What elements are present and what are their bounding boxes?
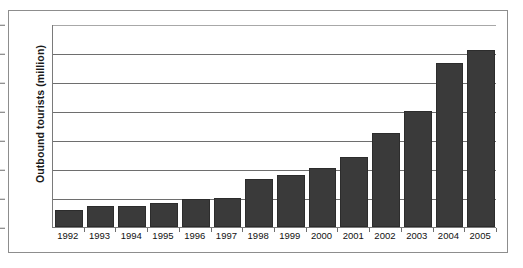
bar-2003 [404, 111, 432, 227]
x-label-1999: 1999 [274, 231, 306, 241]
bar-chart-figure: Outbound tourists (million) 051015202530… [0, 0, 523, 268]
y-axis-ticks: 05101520253035 [0, 0, 52, 268]
y-tick-mark [0, 199, 5, 200]
y-tick-mark [0, 83, 5, 84]
bar-1996 [182, 199, 210, 227]
x-label-1995: 1995 [147, 231, 179, 241]
bars-layer [53, 25, 496, 227]
bar-2001 [340, 157, 368, 227]
y-tick-mark [0, 25, 5, 26]
bar-1999 [277, 175, 305, 227]
x-label-1994: 1994 [115, 231, 147, 241]
chart-screenshot: Outbound tourists (million) 051015202530… [0, 0, 523, 268]
bar-1998 [245, 179, 273, 227]
x-label-1992: 1992 [52, 231, 84, 241]
bar-1995 [150, 203, 178, 227]
x-label-2001: 2001 [337, 231, 369, 241]
bar-2002 [372, 133, 400, 228]
y-tick-mark [0, 54, 5, 55]
x-label-2000: 2000 [306, 231, 338, 241]
x-label-2004: 2004 [433, 231, 465, 241]
bar-1994 [118, 206, 146, 227]
bar-2000 [309, 168, 337, 227]
bar-1992 [55, 210, 83, 227]
x-tick-mark [496, 228, 497, 232]
x-label-2003: 2003 [401, 231, 433, 241]
x-label-1998: 1998 [242, 231, 274, 241]
y-tick-mark [0, 228, 5, 229]
y-tick-mark [0, 112, 5, 113]
x-label-2002: 2002 [369, 231, 401, 241]
bar-1997 [214, 198, 242, 227]
x-label-1993: 1993 [84, 231, 116, 241]
bar-2004 [436, 63, 464, 227]
plot-area [52, 25, 496, 228]
y-tick-mark [0, 170, 5, 171]
y-tick-mark [0, 141, 5, 142]
x-label-1996: 1996 [179, 231, 211, 241]
x-label-1997: 1997 [211, 231, 243, 241]
bar-2005 [467, 50, 495, 227]
x-label-2005: 2005 [464, 231, 496, 241]
bar-1993 [87, 206, 115, 227]
